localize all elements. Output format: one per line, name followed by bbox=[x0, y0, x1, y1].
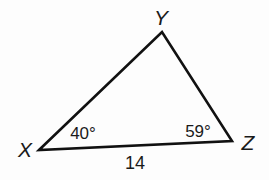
angle-label-z: 59° bbox=[185, 122, 211, 141]
angle-label-x: 40° bbox=[70, 124, 96, 143]
side-label-xz: 14 bbox=[125, 153, 145, 173]
vertex-label-z: Z bbox=[241, 131, 256, 154]
vertex-label-y: Y bbox=[154, 6, 170, 29]
vertex-label-x: X bbox=[17, 138, 33, 161]
triangle-diagram: Y X Z 40° 59° 14 bbox=[0, 0, 269, 180]
triangle-svg: Y X Z 40° 59° 14 bbox=[0, 0, 269, 180]
